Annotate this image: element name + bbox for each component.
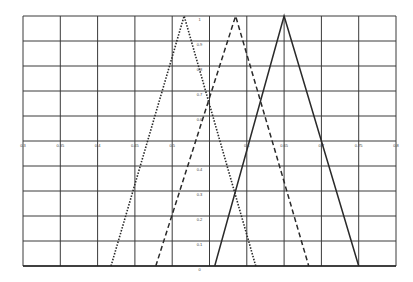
x-tick-label: 0.65 bbox=[280, 143, 289, 148]
x-tick-label: 0.8 bbox=[393, 143, 399, 148]
y-tick-label: 1 bbox=[198, 17, 201, 22]
x-tick-label: 0.4 bbox=[95, 143, 101, 148]
y-axis-tick-labels: 00.10.20.30.40.60.70.80.91 bbox=[197, 17, 203, 272]
grid-lines bbox=[23, 16, 396, 266]
y-tick-label: 0.6 bbox=[197, 117, 203, 122]
y-tick-label: 0 bbox=[198, 267, 201, 272]
y-tick-label: 0.4 bbox=[197, 167, 203, 172]
y-tick-label: 0.1 bbox=[197, 242, 203, 247]
x-tick-label: 0.6 bbox=[244, 143, 250, 148]
y-tick-label: 0.7 bbox=[197, 92, 203, 97]
x-tick-label: 0.3 bbox=[20, 143, 26, 148]
x-tick-label: 0.5 bbox=[169, 143, 175, 148]
y-tick-label: 0.8 bbox=[197, 67, 203, 72]
membership-function-chart: 0.30.350.40.450.50.60.650.70.750.8 00.10… bbox=[0, 0, 413, 282]
y-tick-label: 0.3 bbox=[197, 192, 203, 197]
x-tick-label: 0.35 bbox=[56, 143, 65, 148]
x-tick-label: 0.7 bbox=[319, 143, 325, 148]
x-tick-label: 0.45 bbox=[131, 143, 140, 148]
x-tick-label: 0.75 bbox=[355, 143, 364, 148]
y-tick-label: 0.9 bbox=[197, 42, 203, 47]
y-tick-label: 0.2 bbox=[197, 217, 203, 222]
